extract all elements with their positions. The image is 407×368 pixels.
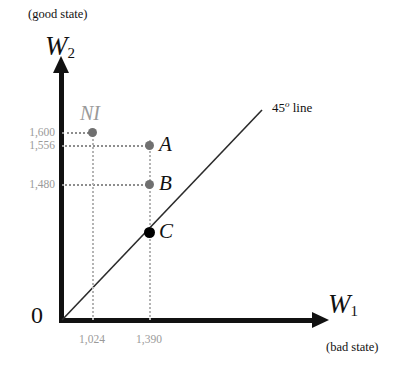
data-point-ni[interactable] (88, 128, 97, 137)
y-tick-1600: 1,600 (10, 127, 55, 139)
origin-label: 0 (31, 303, 43, 327)
data-point-a[interactable] (145, 141, 154, 150)
line45-word: line (290, 100, 313, 115)
guide-h-1556 (62, 145, 150, 147)
bad-state-note: (bad state) (326, 341, 378, 354)
x-axis-line (59, 318, 318, 323)
diagram-canvas: (good state) W2 45o line NI A B C 1,600 … (0, 0, 407, 368)
x-axis-subscript: 1 (351, 303, 359, 319)
data-point-b-label: B (159, 173, 172, 194)
data-point-c[interactable] (144, 227, 155, 238)
x-axis-arrow-icon (312, 312, 329, 328)
data-point-ni-label: NI (80, 103, 100, 123)
guide-h-1480 (62, 184, 150, 186)
x-axis-letter: W (328, 289, 351, 319)
x-axis-label: W1 (328, 291, 358, 319)
y-tick-1556: 1,556 (10, 140, 55, 152)
line45-number: 45 (272, 100, 285, 115)
good-state-note: (good state) (28, 8, 87, 21)
data-point-b[interactable] (145, 180, 154, 189)
x-tick-1390: 1,390 (129, 334, 169, 346)
data-point-c-label: C (159, 221, 173, 242)
guide-v-1024 (92, 132, 94, 320)
data-point-a-label: A (159, 134, 172, 155)
y-axis-line (59, 70, 64, 323)
x-tick-1024: 1,024 (72, 334, 112, 346)
y-axis-arrow-icon (53, 56, 69, 73)
y-tick-1480: 1,480 (10, 179, 55, 191)
forty-five-degree-line-label: 45o line (272, 100, 312, 114)
